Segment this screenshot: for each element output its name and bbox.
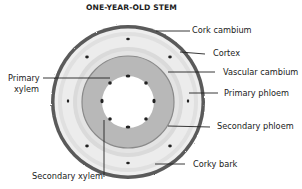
label-primary-phloem: Primary phloem xyxy=(224,88,289,98)
label-secondary-xylem: Secondary xylem xyxy=(32,171,103,181)
label-corky-bark: Corky bark xyxy=(193,159,237,169)
label-vascular-cambium: Vascular cambium xyxy=(223,67,298,77)
label-cortex: Cortex xyxy=(213,48,240,58)
label-secondary-phloem: Secondary phloem xyxy=(217,121,294,131)
label-primary-xylem-line2: xylem xyxy=(14,84,39,94)
label-cork-cambium: Cork cambium xyxy=(192,25,252,35)
label-primary-xylem-line1: Primary xyxy=(8,73,40,83)
